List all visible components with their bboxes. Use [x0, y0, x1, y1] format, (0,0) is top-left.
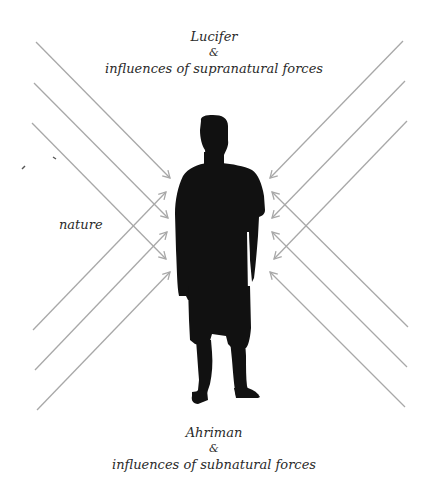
arrow-left-up-1 — [33, 192, 166, 330]
bottom-label-subtitle: influences of subnatural forces — [0, 458, 428, 471]
bottom-label-title: Ahriman — [0, 426, 428, 439]
bottom-label: Ahriman & influences of subnatural force… — [0, 426, 428, 471]
arrow-right-down-2 — [272, 81, 405, 218]
arrow-right-up-1 — [272, 192, 408, 327]
arrow-left-down-3 — [32, 123, 166, 259]
stray-marks — [22, 157, 56, 169]
arrow-right-up-2 — [272, 232, 407, 367]
right-ascending-arrows — [270, 192, 408, 407]
top-label-ampersand: & — [0, 47, 428, 58]
human-silhouette — [175, 115, 265, 404]
nature-label: nature — [59, 217, 103, 232]
arrow-right-down-3 — [274, 121, 407, 259]
arrow-left-up-3 — [37, 272, 170, 410]
arrow-left-up-2 — [35, 232, 167, 370]
arrow-right-up-3 — [270, 272, 405, 407]
top-label-title: Lucifer — [0, 30, 428, 43]
top-label: Lucifer & influences of supranatural for… — [0, 30, 428, 75]
top-label-subtitle: influences of supranatural forces — [0, 62, 428, 75]
bottom-label-ampersand: & — [0, 443, 428, 454]
arrow-left-down-2 — [34, 83, 168, 218]
